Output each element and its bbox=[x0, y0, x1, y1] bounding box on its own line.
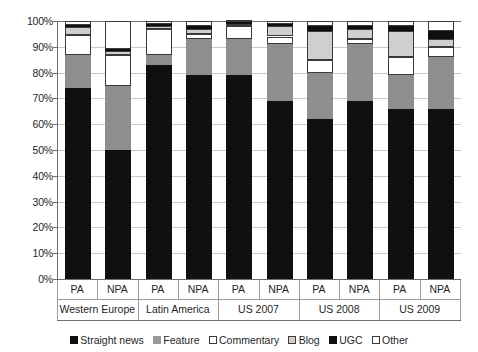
group-label-us-2008: US 2008 bbox=[299, 303, 380, 315]
legend-label: Feature bbox=[163, 334, 199, 346]
y-axis-tick-mark bbox=[53, 47, 57, 48]
bar-segment-straight-news bbox=[388, 109, 414, 279]
bar-segment-other bbox=[428, 21, 454, 31]
legend-label: Straight news bbox=[80, 334, 144, 346]
bar-segment-feature bbox=[307, 73, 333, 119]
y-axis-tick-label: 40% bbox=[33, 171, 53, 182]
bar-segment-commentary bbox=[65, 35, 91, 54]
bars-layer bbox=[58, 21, 461, 279]
subcategory-divider bbox=[178, 280, 179, 299]
subcategory-label-us-2007-pa: PA bbox=[218, 283, 258, 295]
group-divider bbox=[57, 280, 58, 320]
legend-label: UGC bbox=[339, 334, 362, 346]
legend-item-other[interactable]: Other bbox=[372, 334, 409, 346]
bar-segment-blog bbox=[186, 29, 212, 34]
y-axis-tick-mark bbox=[53, 21, 57, 22]
bar-segment-straight-news bbox=[267, 101, 293, 279]
bar-segment-straight-news bbox=[428, 109, 454, 279]
bar-us-2009-pa[interactable] bbox=[388, 21, 414, 279]
bar-segment-other bbox=[146, 21, 172, 24]
y-axis-tick-label: 50% bbox=[33, 145, 53, 156]
bar-segment-feature bbox=[347, 44, 373, 101]
plot-area bbox=[57, 21, 461, 280]
y-axis-tick-label: 80% bbox=[33, 68, 53, 79]
group-divider bbox=[218, 280, 219, 320]
bar-latin-america-pa[interactable] bbox=[146, 21, 172, 279]
y-axis-tick-label: 100% bbox=[27, 16, 53, 27]
bar-western-europe-npa[interactable] bbox=[105, 21, 131, 279]
swatch-blog-icon bbox=[288, 336, 296, 344]
bar-segment-ugc bbox=[347, 26, 373, 29]
bar-segment-feature bbox=[388, 75, 414, 109]
bar-segment-blog bbox=[146, 26, 172, 29]
bar-segment-feature bbox=[105, 86, 131, 151]
subcategory-divider bbox=[420, 280, 421, 299]
subcategory-label-us-2009-npa: NPA bbox=[420, 283, 460, 295]
y-axis-tick-label: 10% bbox=[33, 248, 53, 259]
legend-label: Blog bbox=[299, 334, 320, 346]
bar-segment-feature bbox=[428, 57, 454, 109]
legend-item-straight-news[interactable]: Straight news bbox=[70, 334, 144, 346]
swatch-commentary-icon bbox=[209, 336, 217, 344]
bar-segment-other bbox=[307, 21, 333, 26]
group-divider bbox=[460, 280, 461, 320]
swatch-ugc-icon bbox=[329, 336, 337, 344]
group-label-western-europe: Western Europe bbox=[57, 303, 138, 315]
legend-item-commentary[interactable]: Commentary bbox=[209, 334, 280, 346]
bar-segment-feature bbox=[226, 39, 252, 75]
bar-segment-commentary bbox=[388, 57, 414, 75]
bar-segment-commentary bbox=[226, 26, 252, 39]
bar-segment-straight-news bbox=[307, 119, 333, 279]
bar-segment-commentary bbox=[267, 37, 293, 45]
bar-segment-straight-news bbox=[65, 88, 91, 279]
y-axis-tick-label: 30% bbox=[33, 197, 53, 208]
bar-segment-blog bbox=[388, 31, 414, 57]
y-axis-tick-mark bbox=[53, 150, 57, 151]
bar-segment-commentary bbox=[307, 60, 333, 73]
bar-segment-commentary bbox=[428, 47, 454, 57]
bar-us-2008-pa[interactable] bbox=[307, 21, 333, 279]
bar-segment-straight-news bbox=[186, 75, 212, 279]
bar-segment-ugc bbox=[428, 31, 454, 39]
subcategory-label-us-2008-npa: NPA bbox=[339, 283, 379, 295]
bar-segment-ugc bbox=[146, 24, 172, 27]
bar-segment-straight-news bbox=[105, 150, 131, 279]
bar-segment-other bbox=[186, 21, 212, 26]
legend-item-feature[interactable]: Feature bbox=[153, 334, 200, 346]
bar-us-2009-npa[interactable] bbox=[428, 21, 454, 279]
category-bottom-line bbox=[57, 320, 461, 321]
chart-legend: Straight newsFeatureCommentaryBlogUGCOth… bbox=[0, 331, 478, 349]
bar-segment-ugc bbox=[186, 26, 212, 29]
bar-latin-america-npa[interactable] bbox=[186, 21, 212, 279]
bar-segment-straight-news bbox=[226, 75, 252, 279]
y-axis-tick-mark bbox=[53, 98, 57, 99]
bar-segment-blog bbox=[307, 31, 333, 59]
stacked-bar-chart: 100%90%80%70%60%50%40%30%20%10%0% PANPAP… bbox=[0, 0, 478, 352]
bar-segment-other bbox=[226, 20, 252, 22]
y-axis-tick-mark bbox=[53, 227, 57, 228]
bar-segment-blog bbox=[267, 26, 293, 36]
group-divider bbox=[299, 280, 300, 320]
bar-us-2007-pa[interactable] bbox=[226, 21, 252, 279]
bar-western-europe-pa[interactable] bbox=[65, 21, 91, 279]
y-axis-tick-label: 0% bbox=[38, 274, 53, 285]
bar-segment-blog bbox=[105, 51, 131, 55]
subcategory-label-us-2008-pa: PA bbox=[299, 283, 339, 295]
bar-segment-feature bbox=[267, 44, 293, 101]
subcategory-divider bbox=[259, 280, 260, 299]
subcategory-label-western-europe-npa: NPA bbox=[97, 283, 137, 295]
bar-segment-feature bbox=[186, 39, 212, 75]
bar-segment-other bbox=[267, 21, 293, 24]
bar-us-2008-npa[interactable] bbox=[347, 21, 373, 279]
legend-item-blog[interactable]: Blog bbox=[288, 334, 320, 346]
bar-segment-blog bbox=[347, 29, 373, 39]
bar-segment-blog bbox=[428, 39, 454, 47]
y-axis-tick-label: 20% bbox=[33, 222, 53, 233]
legend-item-ugc[interactable]: UGC bbox=[329, 334, 363, 346]
bar-segment-ugc bbox=[307, 26, 333, 31]
bar-segment-other bbox=[347, 21, 373, 26]
y-axis-tick-label: 70% bbox=[33, 93, 53, 104]
y-axis-tick-mark bbox=[53, 73, 57, 74]
bar-us-2007-npa[interactable] bbox=[267, 21, 293, 279]
group-label-latin-america: Latin America bbox=[138, 303, 219, 315]
